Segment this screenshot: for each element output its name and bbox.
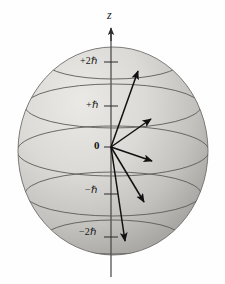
z-axis-label: z — [107, 9, 112, 21]
tick-label-minus-two-hbar: −2ℏ — [79, 227, 96, 237]
tick-label-minus-one-hbar: −ℏ — [85, 185, 97, 195]
angular-momentum-figure: z +2ℏ +ℏ 0 −ℏ −2ℏ — [0, 0, 225, 284]
tick-label-zero: 0 — [94, 140, 100, 151]
tick-label-plus-one-hbar: +ℏ — [86, 100, 98, 110]
tick-label-plus-two-hbar: +2ℏ — [80, 56, 97, 66]
diagram-canvas — [0, 0, 225, 284]
